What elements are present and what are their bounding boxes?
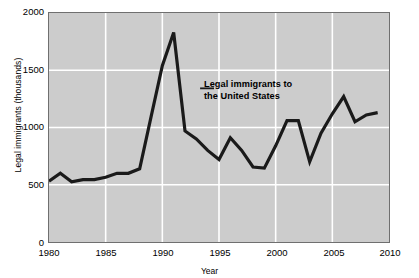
y-tick-1500: 1500 [0,65,44,75]
x-axis-title: Year [0,266,419,276]
x-tick-1990: 1990 [143,248,183,258]
chart-figure: Legal immigrants (thousands) 2000 1500 1… [0,0,419,278]
x-tick-1995: 1995 [200,248,240,258]
annotation-line-2: the United States [204,90,336,102]
x-tick-2000: 2000 [257,248,297,258]
x-tick-1985: 1985 [86,248,126,258]
y-tick-0: 0 [0,238,44,248]
x-tick-2010: 2010 [370,248,410,258]
y-tick-2000: 2000 [0,7,44,17]
plot-area [48,12,390,243]
y-tick-500: 500 [0,180,44,190]
series-annotation: Legal immigrants to the United States [204,78,336,103]
data-line-legal-immigrants [49,32,378,181]
y-axis-tick-labels: 2000 1500 1000 500 0 [0,0,44,278]
chart-canvas [49,13,389,242]
x-tick-1980: 1980 [29,248,69,258]
y-tick-1000: 1000 [0,122,44,132]
annotation-line-1: Legal immigrants to [204,78,336,90]
x-tick-2005: 2005 [314,248,354,258]
